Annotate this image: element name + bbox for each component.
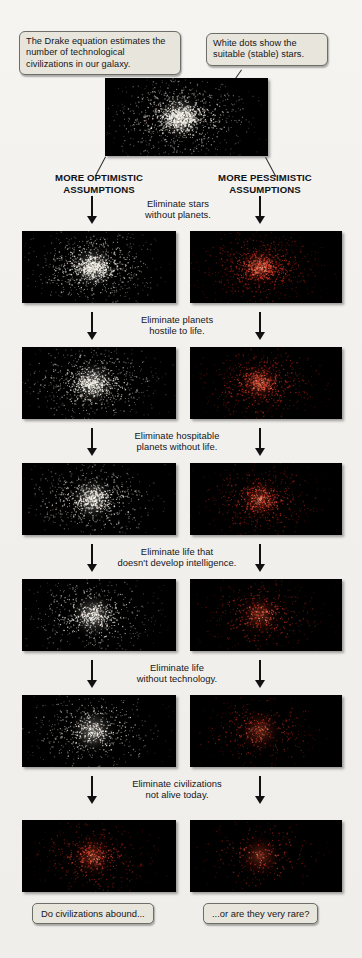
arrow-shaft — [259, 660, 261, 681]
step-caption-1-line1: Eliminate stars — [116, 198, 240, 209]
arrow-right-step-6 — [250, 776, 270, 804]
abound-caption: Do civilizations abound... — [32, 903, 154, 924]
drake-equation-callout-text: The Drake equation estimates the number … — [26, 36, 166, 69]
step-caption-5-line1: Eliminate life — [114, 662, 240, 673]
arrow-left-step-3 — [82, 428, 102, 456]
panel-pessimistic-step-1 — [190, 231, 342, 303]
arrow-left-step-1 — [82, 196, 102, 224]
panel-pessimistic-step-6 — [190, 820, 342, 892]
panel-optimistic-step-1 — [22, 231, 176, 303]
panel-pessimistic-step-5 — [190, 695, 342, 767]
step-caption-6-line2: not alive today. — [106, 789, 248, 800]
arrow-head — [87, 216, 97, 224]
arrow-shaft — [91, 660, 93, 681]
step-caption-1-line2: without planets. — [116, 209, 240, 220]
infographic-root: The Drake equation estimates the number … — [0, 0, 362, 958]
column-header-optimistic: MORE OPTIMISTIC ASSUMPTIONS — [24, 172, 174, 195]
arrow-head — [255, 216, 265, 224]
step-caption-3: Eliminate hospitable planets without lif… — [108, 430, 246, 453]
arrow-left-step-5 — [82, 660, 102, 688]
panel-optimistic-step-5 — [22, 695, 176, 767]
arrow-shaft — [259, 544, 261, 565]
arrow-head — [255, 448, 265, 456]
arrow-head — [87, 332, 97, 340]
arrow-head — [255, 332, 265, 340]
step-caption-1: Eliminate stars without planets. — [116, 198, 240, 221]
step-caption-2: Eliminate planets hostile to life. — [114, 314, 240, 337]
panel-optimistic-step-2 — [22, 347, 176, 419]
panel-pessimistic-step-3 — [190, 463, 342, 535]
column-header-pessimistic-line1: MORE PESSIMISTIC — [190, 172, 340, 184]
arrow-right-step-5 — [250, 660, 270, 688]
step-caption-4-line1: Eliminate life that — [96, 546, 258, 557]
column-header-pessimistic-line2: ASSUMPTIONS — [190, 184, 340, 196]
galaxy-panel-all-stars — [105, 78, 268, 156]
drake-equation-callout: The Drake equation estimates the number … — [19, 31, 181, 75]
panel-pessimistic-step-4 — [190, 579, 342, 651]
arrow-head — [87, 448, 97, 456]
column-header-pessimistic: MORE PESSIMISTIC ASSUMPTIONS — [190, 172, 340, 195]
white-dots-callout-text: White dots show the suitable (stable) st… — [213, 38, 304, 59]
arrow-shaft — [91, 196, 93, 217]
column-header-optimistic-line1: MORE OPTIMISTIC — [24, 172, 174, 184]
panel-pessimistic-step-2 — [190, 347, 342, 419]
step-caption-5: Eliminate life without technology. — [114, 662, 240, 685]
arrow-head — [87, 796, 97, 804]
arrow-shaft — [259, 196, 261, 217]
arrow-shaft — [91, 544, 93, 565]
arrow-shaft — [259, 312, 261, 333]
arrow-shaft — [259, 428, 261, 449]
step-caption-6: Eliminate civilizations not alive today. — [106, 778, 248, 801]
arrow-left-step-2 — [82, 312, 102, 340]
arrow-shaft — [91, 428, 93, 449]
step-caption-6-line1: Eliminate civilizations — [106, 778, 248, 789]
arrow-head — [255, 796, 265, 804]
panel-optimistic-step-4 — [22, 579, 176, 651]
arrow-shaft — [91, 312, 93, 333]
step-caption-4: Eliminate life that doesn't develop inte… — [96, 546, 258, 569]
arrow-shaft — [91, 776, 93, 797]
column-header-optimistic-line2: ASSUMPTIONS — [24, 184, 174, 196]
step-caption-5-line2: without technology. — [114, 673, 240, 684]
panel-optimistic-step-6 — [22, 820, 176, 892]
arrow-right-step-2 — [250, 312, 270, 340]
arrow-head — [87, 680, 97, 688]
white-dots-callout: White dots show the suitable (stable) st… — [206, 33, 328, 66]
step-caption-4-line2: doesn't develop intelligence. — [96, 557, 258, 568]
step-caption-3-line2: planets without life. — [108, 441, 246, 452]
arrow-right-step-1 — [250, 196, 270, 224]
rare-caption: ...or are they very rare? — [203, 903, 318, 924]
abound-caption-text: Do civilizations abound... — [41, 908, 145, 919]
arrow-right-step-3 — [250, 428, 270, 456]
arrow-shaft — [259, 776, 261, 797]
arrow-left-step-6 — [82, 776, 102, 804]
step-caption-2-line2: hostile to life. — [114, 325, 240, 336]
panel-optimistic-step-3 — [22, 463, 176, 535]
arrow-head — [255, 680, 265, 688]
rare-caption-text: ...or are they very rare? — [212, 908, 309, 919]
step-caption-2-line1: Eliminate planets — [114, 314, 240, 325]
step-caption-3-line1: Eliminate hospitable — [108, 430, 246, 441]
